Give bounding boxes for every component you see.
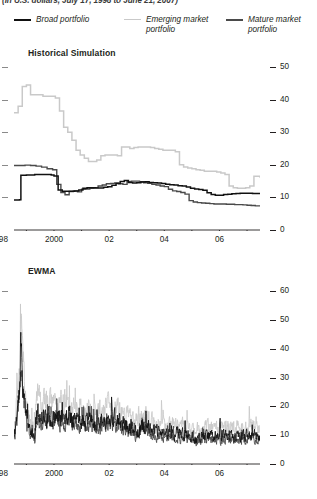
y-axis-tick-right bbox=[270, 165, 276, 166]
y-axis-tick-left bbox=[2, 100, 8, 101]
x-axis-label: 02 bbox=[93, 469, 125, 478]
y-axis-tick-left bbox=[2, 320, 8, 321]
legend-item-broad-portfolio: Broad portfolio bbox=[14, 15, 89, 25]
legend-item-mature-market-portfolio: Mature market portfolio bbox=[226, 15, 309, 34]
y-axis-tick-left bbox=[2, 378, 8, 379]
legend-swatch-broad-portfolio bbox=[14, 19, 31, 21]
x-axis-label: 1998 bbox=[0, 469, 15, 478]
x-axis-label: 2000 bbox=[38, 235, 70, 244]
series-line-broad-portfolio bbox=[14, 175, 260, 200]
y-axis-tick-left bbox=[2, 67, 8, 68]
legend-label-emerging-market-portfolio: Emerging market portfolio bbox=[146, 15, 224, 34]
plot-area-ewma bbox=[14, 274, 260, 464]
y-axis-label: 50 bbox=[280, 62, 289, 71]
legend-swatch-mature-market-portfolio bbox=[226, 19, 243, 21]
y-axis-label: 60 bbox=[280, 286, 289, 295]
series-line-mature-market-portfolio bbox=[14, 165, 260, 206]
y-axis-tick-left bbox=[2, 406, 8, 407]
y-axis-tick-right bbox=[270, 349, 276, 350]
legend-label-mature-market-portfolio: Mature market portfolio bbox=[248, 15, 309, 34]
y-axis-label: 30 bbox=[280, 373, 289, 382]
y-axis-tick-left bbox=[2, 349, 8, 350]
y-axis-tick-right bbox=[270, 230, 276, 231]
y-axis-tick-right bbox=[270, 378, 276, 379]
legend-swatch-emerging-market-portfolio bbox=[124, 19, 141, 20]
y-axis-tick-left bbox=[2, 132, 8, 133]
y-axis-label: 40 bbox=[280, 95, 289, 104]
y-axis-label: 20 bbox=[280, 401, 289, 410]
x-axis-label: 06 bbox=[203, 235, 235, 244]
x-axis-label: 04 bbox=[148, 235, 180, 244]
y-axis-label: 50 bbox=[280, 315, 289, 324]
plot-area-historical-simulation bbox=[14, 54, 260, 230]
y-axis-tick-left bbox=[2, 291, 8, 292]
y-axis-tick-left bbox=[2, 197, 8, 198]
legend-label-broad-portfolio: Broad portfolio bbox=[36, 15, 89, 25]
y-axis-tick-right bbox=[270, 291, 276, 292]
y-axis-tick-right bbox=[270, 406, 276, 407]
y-axis-tick-right bbox=[270, 67, 276, 68]
chart-legend: Broad portfolio Emerging market portfoli… bbox=[14, 15, 309, 41]
x-axis-label: 2000 bbox=[38, 469, 70, 478]
y-axis-tick-left bbox=[2, 165, 8, 166]
y-axis-tick-right bbox=[270, 197, 276, 198]
y-axis-label: 0 bbox=[280, 459, 285, 468]
y-axis-tick-right bbox=[270, 320, 276, 321]
panel-ewma: EWMA 010203040506019982000020406 bbox=[0, 258, 317, 486]
y-axis-tick-left bbox=[2, 435, 8, 436]
y-axis-tick-right bbox=[270, 132, 276, 133]
y-axis-tick-right bbox=[270, 435, 276, 436]
chart-subtitle: (In U.S. dollars, July 17, 1998 to June … bbox=[2, 0, 262, 5]
plot-ewma-svg bbox=[14, 274, 260, 465]
y-axis-label: 30 bbox=[280, 127, 289, 136]
legend-item-emerging-market-portfolio: Emerging market portfolio bbox=[124, 15, 224, 34]
x-axis-label: 06 bbox=[203, 469, 235, 478]
y-axis-label: 10 bbox=[280, 192, 289, 201]
y-axis-tick-right bbox=[270, 464, 276, 465]
y-axis-label: 20 bbox=[280, 160, 289, 169]
y-axis-tick-right bbox=[270, 100, 276, 101]
series-line-emerging-market-portfolio bbox=[14, 85, 260, 188]
plot-hist-svg bbox=[14, 54, 260, 231]
x-axis-label: 04 bbox=[148, 469, 180, 478]
y-axis-label: 0 bbox=[280, 225, 285, 234]
panel-historical-simulation: Historical Simulation 010203040501998200… bbox=[0, 42, 317, 247]
x-axis-label: 1998 bbox=[0, 235, 15, 244]
y-axis-label: 10 bbox=[280, 430, 289, 439]
series-line-emerging-market-portfolio bbox=[14, 304, 260, 437]
y-axis-label: 40 bbox=[280, 344, 289, 353]
x-axis-label: 02 bbox=[93, 235, 125, 244]
